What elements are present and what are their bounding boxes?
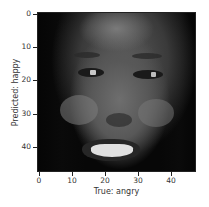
left-cheek	[60, 95, 98, 125]
y-tick-0	[33, 14, 37, 15]
nose	[106, 113, 132, 127]
y-tick-10	[33, 47, 37, 48]
y-tick-40	[33, 147, 37, 148]
y-tick-label: 40	[11, 143, 31, 151]
right-eyebrow	[132, 53, 162, 59]
x-tick-label: 0	[29, 177, 49, 185]
x-axis-title: True: angry	[37, 187, 196, 196]
x-tick-label: 40	[161, 177, 181, 185]
teeth	[91, 144, 133, 157]
left-eye-glint	[90, 70, 96, 75]
x-tick-label: 20	[95, 177, 115, 185]
right-eye-glint	[151, 72, 156, 77]
y-tick-30	[33, 114, 37, 115]
left-eyebrow	[74, 52, 100, 58]
x-tick-label: 30	[128, 177, 148, 185]
right-cheek	[138, 99, 174, 127]
y-tick-label: 0	[11, 10, 31, 18]
y-tick-20	[33, 80, 37, 81]
y-axis-title: Predicted: happy	[11, 43, 20, 143]
image-axes	[37, 12, 196, 172]
x-tick-label: 10	[62, 177, 82, 185]
right-eye	[133, 70, 163, 79]
